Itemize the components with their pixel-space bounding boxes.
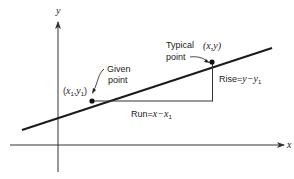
given-point-dot bbox=[89, 98, 94, 103]
typical-point-caption-line1: Typical bbox=[166, 40, 194, 50]
given-point-caption-line2: point bbox=[108, 75, 128, 85]
given-point-arrowhead-icon bbox=[92, 88, 96, 94]
x-axis-label: x bbox=[286, 139, 292, 150]
typical-point-dot bbox=[209, 59, 214, 64]
given-point-pointer-icon bbox=[94, 69, 104, 90]
slope-diagram: y x Given point (x1,y1) Typical point (x… bbox=[0, 0, 294, 179]
run-label: Run=x−x1 bbox=[131, 108, 172, 120]
typical-point-caption-line2: point bbox=[166, 52, 186, 62]
y-axis-label: y bbox=[55, 5, 61, 16]
typical-point-pointer-icon bbox=[190, 57, 207, 61]
rise-label: Rise=y−y1 bbox=[219, 73, 262, 85]
given-point-caption-line1: Given bbox=[107, 64, 131, 74]
typical-point-coord-label: (x,y) bbox=[203, 40, 222, 52]
given-point-coord-label: (x1,y1) bbox=[63, 85, 87, 97]
